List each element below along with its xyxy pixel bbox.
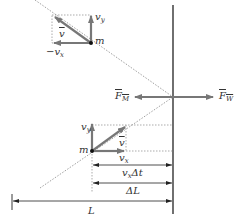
label-lower-m: m <box>79 145 88 155</box>
label-upper-vy: vy <box>95 12 105 24</box>
label-force-w: FW <box>219 91 233 103</box>
label-dim-L: L <box>88 206 95 216</box>
label-lower-vx: vx <box>119 153 129 165</box>
label-upper-m: m <box>95 36 104 46</box>
label-force-m: FM <box>115 91 129 103</box>
lower-mass-dot <box>90 149 94 153</box>
label-lower-vy: vy <box>81 122 91 134</box>
upper-mass-dot <box>89 41 93 45</box>
label-upper-minus-vx: −vx <box>46 47 64 59</box>
label-dim-dL: ΔL <box>126 186 140 196</box>
label-dim-vx-dt: vxΔt <box>122 168 143 180</box>
diagram-graphics <box>0 0 238 224</box>
diagram-canvas: vy v m −vx FM FW vy v m vx vxΔt ΔL L <box>0 0 238 224</box>
label-upper-v: v <box>59 29 65 39</box>
trajectory-in <box>40 97 173 188</box>
label-lower-v: v <box>119 138 125 148</box>
